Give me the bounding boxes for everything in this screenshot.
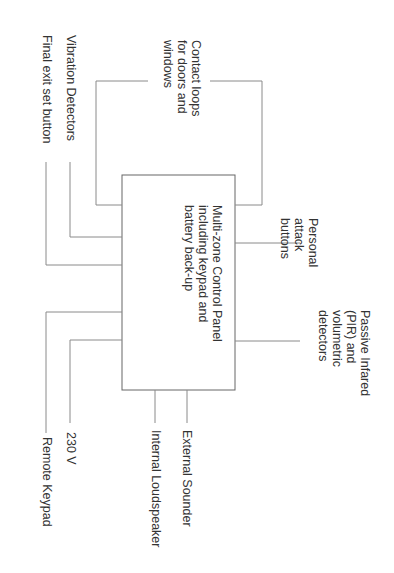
label-personal-attack-buttons: Personal attack buttons — [278, 218, 320, 267]
label-external-sounder: External Sounder — [180, 430, 194, 527]
label-230v: 230 V — [64, 432, 78, 465]
label-pir-detectors: Passive Infared (PIR) and volumetric det… — [316, 310, 372, 396]
label-control-panel: Multi-zone Control Panel including keypa… — [182, 205, 224, 342]
wire-remote-keypad — [46, 312, 122, 433]
label-remote-keypad: Remote Keypad — [40, 437, 54, 527]
label-vibration-detectors: Vibration Detectors — [64, 35, 78, 141]
label-contact-loops: Contact loops for doors and windows — [161, 40, 203, 116]
label-internal-loudspeaker: Internal Loudspeaker — [149, 430, 163, 547]
wire-final-exit — [46, 162, 122, 265]
wire-230v — [70, 340, 122, 423]
label-final-exit-set-button: Final exit set button — [40, 35, 54, 143]
